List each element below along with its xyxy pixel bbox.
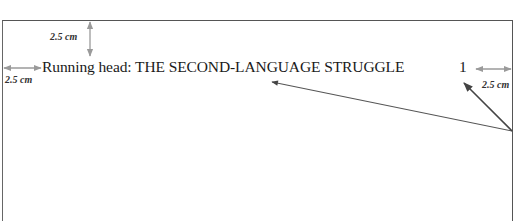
right-margin-label: 2.5 cm xyxy=(482,79,509,90)
left-margin-label: 2.5 cm xyxy=(5,74,32,85)
running-head: Running head: THE SECOND-LANGUAGE STRUGG… xyxy=(42,58,404,76)
page-number: 1 xyxy=(459,58,467,76)
top-margin-label: 2.5 cm xyxy=(50,31,77,42)
document-page xyxy=(2,20,513,221)
